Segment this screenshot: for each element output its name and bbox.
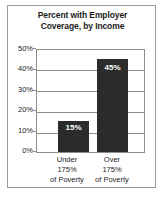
plot-wrapper: 50% 40% 30% 20% 10% 0% 15% 4 [36, 49, 145, 153]
gridline-40 [37, 70, 145, 71]
y-tick-label-0: 0% [8, 146, 33, 155]
x-category-label-2: Over 175% of Poverty [77, 155, 147, 185]
y-tick-label-40: 40% [8, 64, 33, 73]
y-tick-label-30: 30% [8, 85, 33, 94]
x-axis-labels: Under 175% of Poverty Over 175% of Pover… [36, 155, 145, 189]
x-category-2-line-2: 175% [77, 165, 147, 175]
y-tick-label-20: 20% [8, 105, 33, 114]
y-tick-label-50: 50% [8, 44, 33, 53]
gridline-30 [37, 91, 145, 92]
chart-title-line-1: Percent with Employer [8, 10, 157, 21]
bar-under-175-poverty[interactable]: 15% [58, 121, 89, 152]
chart-frame: Percent with Employer Coverage, by Incom… [7, 5, 156, 188]
plot-area: 15% 45% [36, 49, 145, 153]
y-axis: 50% 40% 30% 20% 10% 0% [8, 43, 33, 159]
bar-value-label-2: 45% [97, 63, 128, 72]
y-tick-label-10: 10% [8, 126, 33, 135]
bar-over-175-poverty[interactable]: 45% [97, 59, 128, 152]
x-category-2-line-3: of Poverty [77, 175, 147, 185]
x-category-2-line-1: Over [77, 155, 147, 165]
gridline-20 [37, 112, 145, 113]
bar-value-label-1: 15% [58, 123, 89, 132]
gridline-10 [37, 133, 145, 134]
chart-title: Percent with Employer Coverage, by Incom… [8, 10, 157, 32]
chart-title-line-2: Coverage, by Income [8, 21, 157, 32]
